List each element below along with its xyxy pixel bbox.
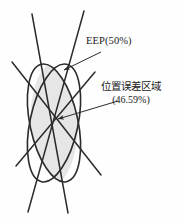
position-error-region-name: 位置误差区域 (101, 81, 161, 92)
error-ellipse-figure: EEP(50%) 位置误差区域 (46.59%) (0, 0, 184, 219)
position-error-region-label: 位置误差区域 (46.59%) (101, 81, 161, 106)
eep-label: EEP(50%) (86, 35, 132, 47)
figure-canvas (0, 0, 184, 219)
position-error-region-value: (46.59%) (101, 94, 161, 106)
